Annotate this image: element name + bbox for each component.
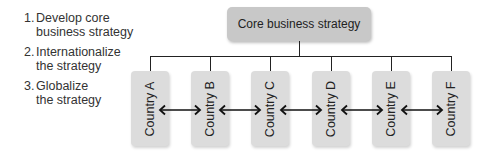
double-arrow-icon (218, 104, 262, 116)
step-1: 1. Develop core business strategy (24, 11, 133, 39)
country-label: Country C (263, 80, 277, 136)
step-number: 2. (24, 45, 34, 59)
step-number: 1. (24, 11, 34, 25)
country-label: Country F (444, 81, 458, 136)
double-arrow-icon (400, 104, 444, 116)
steps-list: 1. Develop core business strategy 2. Int… (24, 11, 133, 113)
core-strategy-box: Core business strategy (227, 7, 371, 41)
step-text: Develop core business strategy (36, 11, 133, 39)
drop-line-e (391, 56, 392, 71)
double-arrow-icon (340, 104, 384, 116)
step-text: Internationalize the strategy (36, 45, 133, 73)
step-2: 2. Internationalize the strategy (24, 45, 133, 73)
double-arrow-icon (158, 104, 202, 116)
step-number: 3. (24, 79, 34, 93)
drop-line-d (331, 56, 332, 71)
core-stem-line (299, 41, 300, 56)
drop-line-a (150, 56, 151, 71)
country-label: Country A (143, 81, 157, 136)
step-3: 3. Globalize the strategy (24, 79, 133, 107)
step-text: Globalize the strategy (36, 79, 133, 107)
drop-line-c (270, 56, 271, 71)
bus-line (150, 56, 452, 57)
double-arrow-icon (279, 104, 323, 116)
country-label: Country D (324, 80, 338, 136)
country-label: Country E (384, 81, 398, 137)
core-strategy-label: Core business strategy (238, 17, 361, 31)
drop-line-b (210, 56, 211, 71)
country-label: Country B (203, 81, 217, 137)
drop-line-f (451, 56, 452, 71)
